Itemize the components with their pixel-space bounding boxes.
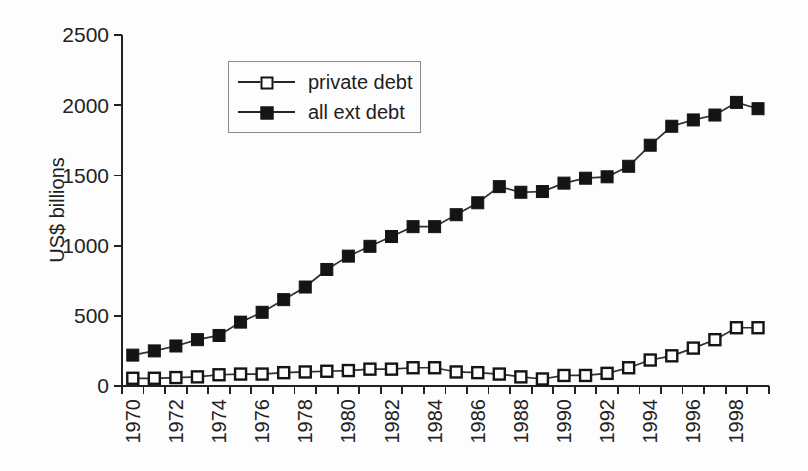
series-all-ext-debt-marker (536, 186, 548, 198)
series-all-ext-debt-marker (235, 316, 247, 328)
series-all-ext-debt-marker (666, 120, 678, 132)
series-private-debt-marker (278, 367, 289, 378)
x-tick-label: 1998 (725, 399, 747, 444)
series-private-debt-marker (235, 369, 246, 380)
y-tick-label: 2000 (62, 94, 109, 117)
series-all-ext-debt-marker (493, 181, 505, 193)
series-all-ext-debt-marker (191, 334, 203, 346)
series-all-ext-debt-marker (580, 172, 592, 184)
series-all-ext-debt-marker (278, 294, 290, 306)
series-all-ext-debt-marker (127, 349, 139, 361)
series-private-debt-marker (580, 370, 591, 381)
x-tick-label: 1970 (122, 399, 144, 444)
series-all-ext-debt-marker (644, 139, 656, 151)
series-private-debt-marker (731, 322, 742, 333)
x-tick-label: 1974 (208, 399, 230, 444)
series-all-ext-debt-marker (429, 221, 441, 233)
y-tick-label: 0 (97, 374, 109, 397)
x-tick-label: 1976 (251, 399, 273, 444)
x-tick-label: 1994 (639, 399, 661, 444)
series-all-ext-debt-marker (364, 240, 376, 252)
y-axis-title: US$ billions (46, 157, 68, 263)
series-private-debt-marker (451, 366, 462, 377)
x-tick-label: 1988 (510, 399, 532, 444)
series-all-ext-debt-line (133, 102, 758, 355)
series-all-ext-debt-marker (299, 281, 311, 293)
series-all-ext-debt-marker (623, 160, 635, 172)
x-tick-label: 1978 (294, 399, 316, 444)
filled-square-marker-icon (260, 107, 273, 120)
y-tick-label: 1000 (62, 234, 109, 257)
series-private-debt-marker (386, 364, 397, 375)
x-tick-label: 1982 (381, 399, 403, 444)
debt-line-chart-figure: 0500100015002000250019701972197419761978… (0, 0, 808, 471)
series-all-ext-debt-marker (170, 340, 182, 352)
series-all-ext-debt-marker (256, 306, 268, 318)
series-private-debt-line (133, 328, 758, 379)
series-private-debt-marker (645, 355, 656, 366)
series-all-ext-debt-marker (558, 177, 570, 189)
series-private-debt-marker (666, 350, 677, 361)
series-private-debt-marker (494, 369, 505, 380)
series-private-debt-marker (170, 372, 181, 383)
series-private-debt-marker (364, 364, 375, 375)
series-private-debt-marker (257, 369, 268, 380)
series-private-debt-marker (688, 343, 699, 354)
y-tick-label: 2500 (62, 23, 109, 46)
x-tick-label: 1980 (337, 399, 359, 444)
series-all-ext-debt-marker (515, 186, 527, 198)
series-private-debt-marker (300, 366, 311, 377)
series-all-ext-debt-marker (730, 96, 742, 108)
x-tick-label: 1992 (596, 399, 618, 444)
y-tick-label: 500 (74, 304, 109, 327)
legend-item-all-ext-debt: all ext debt (229, 102, 420, 122)
series-all-ext-debt-marker (687, 114, 699, 126)
series-private-debt-marker (558, 370, 569, 381)
series-all-ext-debt-marker (213, 329, 225, 341)
x-tick-label: 1972 (165, 399, 187, 444)
x-tick-label: 1996 (682, 399, 704, 444)
series-private-debt-marker (623, 362, 634, 373)
series-private-debt-marker (149, 373, 160, 384)
y-tick-label: 1500 (62, 164, 109, 187)
series-all-ext-debt-marker (342, 250, 354, 262)
series-private-debt-marker (343, 365, 354, 376)
x-tick-label: 1984 (424, 399, 446, 444)
series-all-ext-debt-marker (472, 197, 484, 209)
series-private-debt-marker (709, 334, 720, 345)
series-private-debt-marker (429, 362, 440, 373)
x-tick-label: 1986 (467, 399, 489, 444)
legend-item-private-debt: private debt (229, 72, 420, 92)
series-all-ext-debt-marker (407, 221, 419, 233)
series-private-debt-marker (515, 371, 526, 382)
series-private-debt-marker (214, 369, 225, 380)
series-private-debt-marker (127, 373, 138, 384)
open-square-marker-icon (260, 77, 273, 90)
legend-item-label: private debt (308, 72, 413, 92)
series-private-debt-marker (321, 366, 332, 377)
legend-line-sample (238, 111, 295, 113)
series-private-debt-marker (753, 322, 764, 333)
series-private-debt-marker (192, 371, 203, 382)
series-all-ext-debt-marker (601, 171, 613, 183)
chart-legend: private debt all ext debt (228, 61, 421, 133)
legend-line-sample (238, 81, 295, 83)
series-all-ext-debt-marker (148, 345, 160, 357)
series-all-ext-debt-marker (752, 103, 764, 115)
series-all-ext-debt-marker (321, 263, 333, 275)
series-all-ext-debt-marker (450, 209, 462, 221)
series-private-debt-marker (472, 367, 483, 378)
series-all-ext-debt-marker (386, 230, 398, 242)
legend-item-label: all ext debt (308, 102, 405, 122)
series-private-debt-marker (408, 362, 419, 373)
series-all-ext-debt-marker (709, 109, 721, 121)
series-private-debt-marker (537, 373, 548, 384)
series-private-debt-marker (602, 368, 613, 379)
x-tick-label: 1990 (553, 399, 575, 444)
